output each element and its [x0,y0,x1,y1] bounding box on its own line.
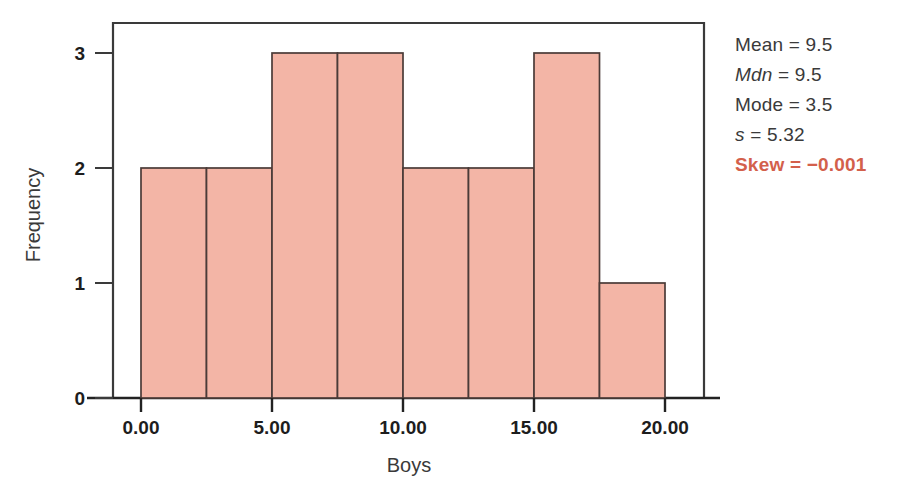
stat-symbol-skew: Skew [735,154,784,175]
stat-value-std-dev: 5.32 [767,124,805,145]
stat-line-std-dev: s = 5.32 [735,120,915,150]
histogram-bar [403,168,469,398]
y-axis-ticks: 0123 [74,43,113,409]
histogram-bar [141,168,207,398]
y-tick-label: 3 [74,43,85,64]
stat-line-mean: Mean = 9.5 [735,30,915,60]
stat-line-mode: Mode = 3.5 [735,90,915,120]
stat-equals-std-dev: = [750,124,761,145]
stat-symbol-mode: Mode [735,94,783,115]
stat-value-mode: 3.5 [806,94,833,115]
histogram-bar [469,168,535,398]
x-tick-label: 10.00 [379,417,427,438]
histogram-bar [207,168,273,398]
x-axis-ticks: 0.005.0010.0015.0020.00 [123,398,689,438]
y-tick-label: 0 [74,388,85,409]
x-tick-label: 20.00 [641,417,689,438]
bars-group [141,53,665,398]
histogram-bar [534,53,600,398]
stat-equals-mean: = [789,34,800,55]
y-tick-label: 2 [74,158,85,179]
stat-line-median: Mdn = 9.5 [735,60,915,90]
histogram-bar [600,283,666,398]
stat-symbol-median: Mdn [735,64,773,85]
stat-line-skew: Skew = −0.001 [735,150,915,180]
x-axis-label: Boys [387,454,431,476]
x-tick-label: 0.00 [123,417,160,438]
histogram-bar [272,53,338,398]
histogram-bar [338,53,404,398]
stat-value-mean: 9.5 [806,34,833,55]
stat-symbol-std-dev: s [735,124,745,145]
stat-equals-mode: = [789,94,800,115]
y-tick-label: 1 [74,273,85,294]
histogram-figure: 0123 0.005.0010.0015.0020.00 Frequency B… [0,0,923,490]
x-tick-label: 5.00 [254,417,291,438]
stat-value-skew: −0.001 [807,154,867,175]
stat-equals-median: = [778,64,789,85]
stat-symbol-mean: Mean [735,34,783,55]
statistics-annotation-panel: Mean = 9.5 Mdn = 9.5 Mode = 3.5 s = 5.32… [735,30,915,180]
y-axis-label: Frequency [22,168,44,263]
x-tick-label: 15.00 [510,417,558,438]
stat-value-median: 9.5 [795,64,822,85]
stat-equals-skew: = [790,154,801,175]
